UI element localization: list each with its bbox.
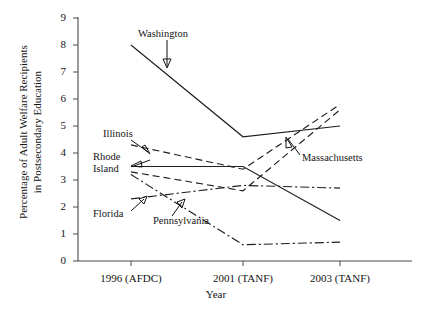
series-label-illinois: Illinois xyxy=(103,128,133,140)
x-axis-title: Year xyxy=(0,288,432,300)
y-tick-marks xyxy=(73,18,78,261)
y-tick-label-4: 4 xyxy=(52,146,66,158)
x-tick-marks xyxy=(131,261,340,266)
series-label-massachusetts: Massachusetts xyxy=(302,152,363,164)
y-tick-label-0: 0 xyxy=(52,254,66,266)
y-tick-label-9: 9 xyxy=(52,11,66,23)
y-axis-title-line1: Percentage of Adult Welfare Recipients xyxy=(16,32,30,232)
series-line-massachusetts xyxy=(131,110,340,191)
y-tick-label-8: 8 xyxy=(52,38,66,50)
y-tick-label-2: 2 xyxy=(52,200,66,212)
series-line-washington xyxy=(131,45,340,137)
series-label-pennsylvania: Pennsylvania xyxy=(153,215,209,227)
y-axis-title: Percentage of Adult Welfare Recipients i… xyxy=(16,32,44,232)
y-tick-label-1: 1 xyxy=(52,227,66,239)
y-tick-label-6: 6 xyxy=(52,92,66,104)
y-axis-title-line2: in Postsecondary Education xyxy=(30,32,44,232)
y-tick-label-3: 3 xyxy=(52,173,66,185)
series-label-washington: Washington xyxy=(138,28,188,40)
y-tick-label-5: 5 xyxy=(52,119,66,131)
series-label-rhode-island-line2: Island xyxy=(93,163,119,175)
series-line-pennsylvania xyxy=(131,175,340,245)
series-label-rhode-island-line1: Rhode xyxy=(93,151,120,163)
series-line-florida xyxy=(131,185,340,199)
series-line-rhode-island xyxy=(131,167,340,221)
line-chart: 9 8 7 6 5 4 3 2 1 0 1996 (AFDC) 2001 (TA… xyxy=(0,0,432,314)
y-tick-label-7: 7 xyxy=(52,65,66,77)
x-tick-label-1996: 1996 (AFDC) xyxy=(71,272,191,284)
series-label-florida: Florida xyxy=(93,208,123,220)
x-tick-label-2003: 2003 (TANF) xyxy=(280,272,400,284)
